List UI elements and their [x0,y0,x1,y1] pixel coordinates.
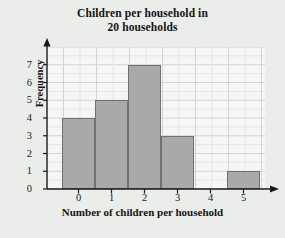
x-tick-label-1: 1 [102,192,122,203]
x-tick-label-5: 5 [234,192,254,203]
y-tick-label-4: 4 [18,113,32,123]
y-tick-label-2: 2 [18,149,32,159]
x-axis-title: Number of children per household [0,206,285,218]
y-tick-label-3: 3 [18,131,32,141]
x-tick-label-2: 2 [135,192,155,203]
y-axis-title: Frequency [34,39,45,129]
x-tick-label-3: 3 [168,192,188,203]
y-tick-label-6: 6 [18,78,32,88]
y-tick-label-1: 1 [18,166,32,176]
x-tick-label-4: 4 [201,192,221,203]
y-tick-label-5: 5 [18,95,32,105]
y-tick-label-7: 7 [18,60,32,70]
y-tick-label-0: 0 [18,184,32,194]
x-tick-label-0: 0 [69,192,89,203]
histogram-chart: Children per household in 20 households … [0,0,285,238]
